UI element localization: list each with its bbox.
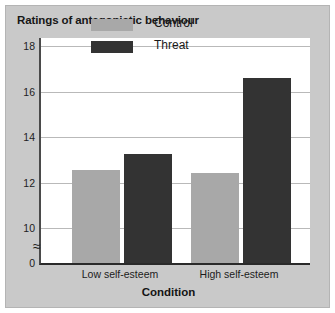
- y-axis-tick-label: 14: [23, 131, 35, 143]
- bar: [243, 78, 291, 263]
- legend-label-threat: Threat: [154, 38, 189, 52]
- y-axis-break-icon: ≈: [33, 239, 47, 253]
- bar: [191, 173, 239, 263]
- chart-figure: Ratings of antagonistic behaviour 181614…: [5, 5, 330, 308]
- bar: [72, 170, 120, 263]
- x-axis-title: Condition: [6, 286, 331, 298]
- y-axis-tick-label: 10: [23, 222, 35, 234]
- y-axis-tick-label: 16: [23, 86, 35, 98]
- y-axis-tick-label: 18: [23, 40, 35, 52]
- plot-area: [39, 38, 310, 265]
- legend-swatch-threat-icon: [91, 41, 133, 53]
- legend-swatch-control-icon: [91, 19, 133, 31]
- y-axis-tick-label: 12: [23, 177, 35, 189]
- bar: [124, 154, 172, 263]
- x-axis-tick-label: High self-esteem: [179, 268, 299, 280]
- y-axis-tick-label: 0: [29, 257, 35, 269]
- y-axis-ticks: 18161412100: [6, 6, 35, 309]
- legend-label-control: Control: [154, 16, 193, 30]
- x-axis-tick-label: Low self-esteem: [60, 268, 180, 280]
